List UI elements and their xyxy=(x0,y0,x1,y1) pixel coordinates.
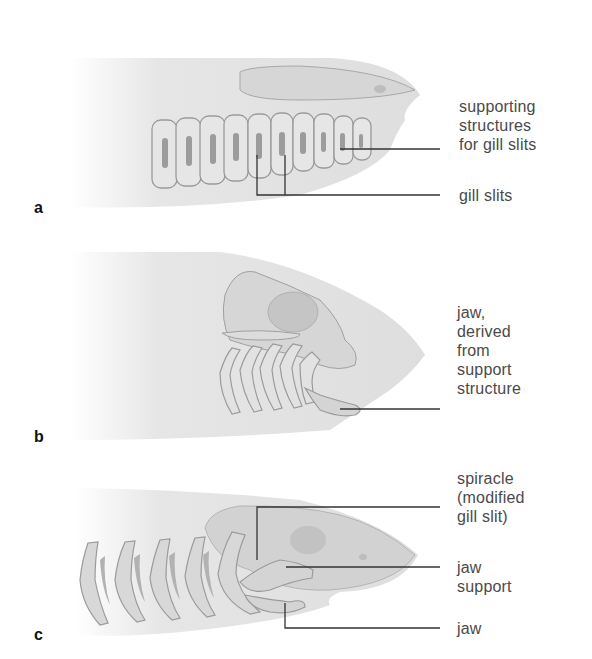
label-supporting-structures: supporting structures for gill slits xyxy=(459,97,536,154)
label-line: from xyxy=(457,341,521,360)
label-jaw-derived: jaw, derived from support structure xyxy=(457,303,521,398)
label-line: support xyxy=(457,360,521,379)
panel-c-illustration xyxy=(75,488,440,636)
label-line: structure xyxy=(457,379,521,398)
panel-b-illustration xyxy=(70,252,440,440)
label-line: gill slit) xyxy=(457,507,525,526)
label-line: support xyxy=(457,577,512,596)
label-line: for gill slits xyxy=(459,135,536,154)
panel-letter-a: a xyxy=(34,199,43,217)
panel-letter-b: b xyxy=(34,428,44,446)
label-line: jaw, xyxy=(457,303,521,322)
label-line: (modified xyxy=(457,488,525,507)
label-line: spiracle xyxy=(457,469,525,488)
panel-letter-c: c xyxy=(34,626,43,644)
label-gill-slits: gill slits xyxy=(459,186,513,205)
label-spiracle: spiracle (modified gill slit) xyxy=(457,469,525,526)
label-line: derived xyxy=(457,322,521,341)
panel-a-illustration xyxy=(70,58,440,208)
label-line: jaw xyxy=(457,558,512,577)
label-line: structures xyxy=(459,116,536,135)
label-jaw-support: jaw support xyxy=(457,558,512,596)
label-line: supporting xyxy=(459,97,536,116)
label-jaw: jaw xyxy=(457,619,482,638)
